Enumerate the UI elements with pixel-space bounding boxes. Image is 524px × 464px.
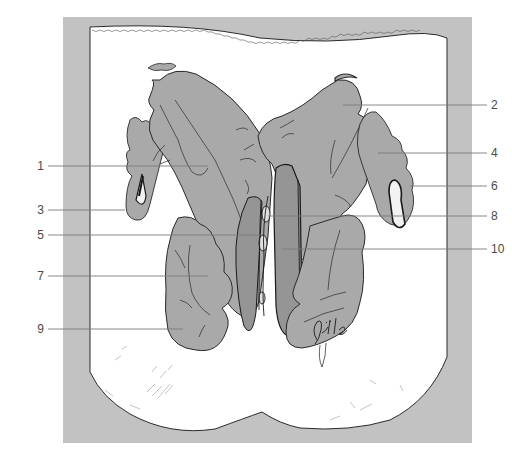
label-9: 9 xyxy=(28,323,44,335)
label-7: 7 xyxy=(28,270,44,282)
illustration-canvas xyxy=(0,0,524,464)
anatomical-figure: 1 3 5 7 9 2 4 6 8 10 xyxy=(0,0,524,464)
label-10: 10 xyxy=(491,243,504,255)
label-5: 5 xyxy=(28,229,44,241)
label-1: 1 xyxy=(28,160,44,172)
label-8: 8 xyxy=(491,210,498,222)
label-3: 3 xyxy=(28,204,44,216)
label-4: 4 xyxy=(491,147,498,159)
label-6: 6 xyxy=(491,180,498,192)
label-2: 2 xyxy=(491,99,498,111)
